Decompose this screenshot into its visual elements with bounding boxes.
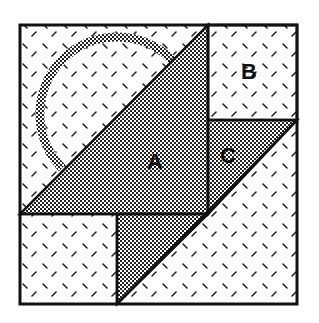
label-b: B [241, 59, 257, 84]
label-a: A [147, 149, 163, 174]
diagram-canvas: A B C [0, 0, 319, 323]
label-c: C [220, 143, 236, 168]
